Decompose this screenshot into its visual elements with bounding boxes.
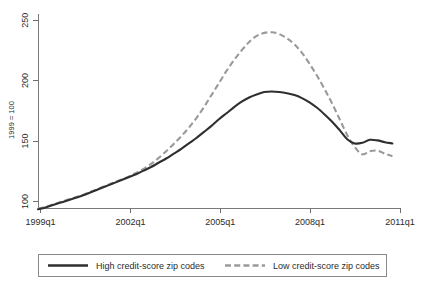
legend-label-high-credit-score: High credit-score zip codes (96, 261, 205, 271)
x-tick-label-2002q1: 2002q1 (115, 217, 145, 227)
plot-background (38, 14, 400, 208)
x-tick-label-1999q1: 1999q1 (25, 217, 55, 227)
x-tick-label-2005q1: 2005q1 (205, 217, 235, 227)
chart-legend: High credit-score zip codes Low credit-s… (39, 255, 387, 277)
y-axis-ticks (33, 20, 38, 201)
x-axis-ticks (41, 208, 401, 213)
y-tick-label-100: 100 (20, 194, 30, 209)
y-axis-tick-labels: 250 200 150 100 (20, 13, 30, 209)
x-axis-tick-labels: 1999q1 2002q1 2005q1 2008q1 2011q1 (25, 217, 414, 227)
y-tick-label-250: 250 (20, 13, 30, 28)
x-tick-label-2008q1: 2008q1 (295, 217, 325, 227)
legend-label-low-credit-score: Low credit-score zip codes (273, 261, 380, 271)
y-tick-label-150: 150 (20, 133, 30, 148)
y-axis-title: 1999 = 100 (7, 101, 16, 139)
line-chart-figure: 250 200 150 100 1999 = 100 1999q1 2002q1… (0, 0, 425, 285)
y-tick-label-200: 200 (20, 73, 30, 88)
x-tick-label-2011q1: 2011q1 (385, 217, 414, 227)
